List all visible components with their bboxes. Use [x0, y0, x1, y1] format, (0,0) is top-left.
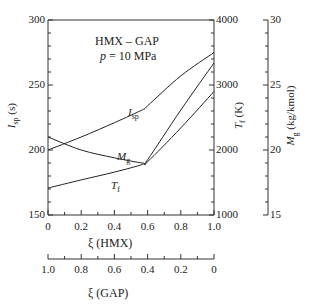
y-tick-isp: 300: [15, 14, 45, 25]
curve-label-mg: Mg: [117, 151, 130, 165]
curve-label-isp: Isp: [128, 107, 139, 121]
pressure-value: = 10 MPa: [106, 49, 156, 63]
curve-isp: [48, 53, 214, 151]
y-tick-isp: 150: [15, 209, 45, 220]
x-tick-secondary: 0.6: [99, 264, 129, 275]
y-axis-label-tf: Tf (K): [232, 102, 247, 129]
curve-tf: [48, 63, 214, 188]
x-tick: 0.2: [66, 221, 96, 232]
x-tick-secondary: 0: [199, 264, 229, 275]
curve-mg: [48, 92, 214, 165]
x-tick: 0.4: [99, 221, 129, 232]
x-tick: 1.0: [199, 221, 229, 232]
y-tick-tf: 3000: [216, 79, 238, 90]
x-tick-secondary: 0.2: [166, 264, 196, 275]
y-axis-label-isp: Isp (s): [5, 103, 20, 128]
x-tick-secondary: 1.0: [33, 264, 63, 275]
y-tick-isp: 200: [15, 144, 45, 155]
x-tick: 0.6: [133, 221, 163, 232]
x-tick-secondary: 0.8: [66, 264, 96, 275]
y-tick-mg: 15: [270, 209, 281, 220]
chart-title: HMX – GAP: [95, 35, 159, 47]
y-tick-tf: 2000: [216, 144, 238, 155]
y-axis-label-mg: Mg (kg/kmol): [284, 86, 299, 146]
x-axis-label-secondary: ξ (GAP): [88, 287, 128, 299]
y-tick-tf: 4000: [216, 14, 238, 25]
curve-label-tf: Tf: [111, 180, 120, 194]
x-tick-secondary: 0.4: [133, 264, 163, 275]
y-tick-mg: 20: [270, 144, 281, 155]
y-tick-mg: 30: [270, 14, 281, 25]
y-tick-tf: 1000: [216, 209, 238, 220]
y-tick-mg: 25: [270, 79, 281, 90]
y-tick-isp: 250: [15, 79, 45, 90]
chart-subtitle: p = 10 MPa: [100, 50, 156, 62]
x-axis-label: ξ (HMX): [88, 237, 132, 249]
x-tick: 0: [33, 221, 63, 232]
x-tick: 0.8: [166, 221, 196, 232]
